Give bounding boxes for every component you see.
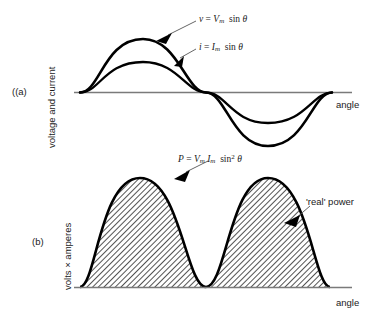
real-power-label: 'real' power — [306, 196, 354, 207]
power-equation-label: P = Vm Im sin2 θ — [178, 153, 242, 165]
panel-a-letter: ((a) — [12, 86, 27, 97]
current-equation-label: i = Im sin θ — [199, 42, 243, 53]
panel-b-letter: (b) — [32, 236, 44, 247]
voltage-equation-label: v = Vm sin θ — [199, 14, 247, 25]
panel-a-x-axis-label: angle — [336, 99, 359, 110]
panel-b-x-axis-label: angle — [336, 297, 359, 308]
panel-b-y-axis-label: volts × amperes — [62, 223, 73, 290]
panel-a-y-axis-label: voltage and current — [46, 67, 57, 148]
